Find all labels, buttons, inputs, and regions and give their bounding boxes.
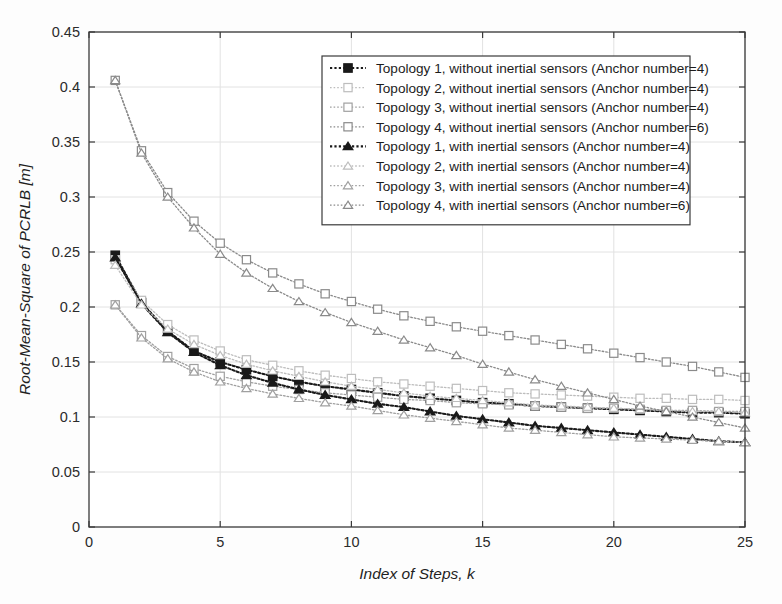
y-axis-tick-label: 0.05 — [52, 464, 80, 480]
data-point-marker — [242, 256, 250, 264]
x-axis-tick-label: 15 — [475, 534, 491, 550]
legend-item-1[interactable]: Topology 1, without inertial sensors (An… — [330, 61, 709, 76]
data-point-marker — [216, 239, 224, 247]
data-point-marker — [583, 345, 591, 353]
y-axis-tick-label: 0.4 — [60, 79, 80, 95]
data-point-marker — [426, 317, 434, 325]
data-point-marker — [400, 312, 408, 320]
legend-marker-sample — [344, 103, 352, 111]
data-point-marker — [531, 390, 539, 398]
x-axis-tick-label: 0 — [85, 534, 93, 550]
legend-label: Topology 4, with inertial sensors (Ancho… — [376, 198, 690, 213]
chart-canvas: 051015202500.050.10.150.20.250.30.350.40… — [0, 0, 782, 604]
data-point-marker — [452, 384, 460, 392]
data-point-marker — [505, 389, 513, 397]
data-point-marker — [505, 332, 513, 340]
legend-item-8[interactable]: Topology 4, with inertial sensors (Ancho… — [330, 198, 690, 213]
legend-label: Topology 2, with inertial sensors (Ancho… — [376, 159, 690, 174]
data-point-marker — [662, 358, 670, 366]
legend-item-3[interactable]: Topology 3, without inertial sensors (An… — [330, 100, 709, 115]
legend-label: Topology 2, without inertial sensors (An… — [376, 81, 709, 96]
figure-container: 051015202500.050.10.150.20.250.30.350.40… — [0, 0, 782, 604]
data-point-marker — [479, 387, 487, 395]
x-axis-tick-label: 25 — [737, 534, 753, 550]
data-point-marker — [557, 340, 565, 348]
legend-item-5[interactable]: Topology 1, with inertial sensors (Ancho… — [330, 139, 690, 154]
legend-item-7[interactable]: Topology 3, with inertial sensors (Ancho… — [330, 179, 690, 194]
data-point-marker — [347, 297, 355, 305]
data-point-marker — [557, 391, 565, 399]
legend-label: Topology 3, with inertial sensors (Ancho… — [376, 179, 690, 194]
data-point-marker — [715, 368, 723, 376]
legend-item-4[interactable]: Topology 4, without inertial sensors (An… — [330, 120, 709, 135]
y-axis-tick-label: 0.35 — [52, 134, 80, 150]
y-axis-tick-label: 0.2 — [60, 299, 80, 315]
y-axis-tick-label: 0.45 — [52, 24, 80, 40]
x-axis-title: Index of Steps, k — [359, 565, 476, 582]
data-point-marker — [636, 354, 644, 362]
data-point-marker — [688, 395, 696, 403]
data-point-marker — [688, 362, 696, 370]
y-axis-tick-label: 0 — [72, 519, 80, 535]
legend-label: Topology 3, without inertial sensors (An… — [376, 100, 709, 115]
data-point-marker — [295, 280, 303, 288]
legend-item-6[interactable]: Topology 2, with inertial sensors (Ancho… — [330, 159, 690, 174]
y-axis-tick-label: 0.3 — [60, 189, 80, 205]
data-point-marker — [269, 269, 277, 277]
data-point-marker — [610, 349, 618, 357]
data-point-marker — [426, 382, 434, 390]
data-point-marker — [452, 323, 460, 331]
y-axis-tick-label: 0.25 — [52, 244, 80, 260]
data-point-marker — [400, 380, 408, 388]
data-point-marker — [662, 394, 670, 402]
x-axis-tick-label: 5 — [216, 534, 224, 550]
data-point-marker — [374, 305, 382, 313]
legend-marker-sample — [344, 84, 352, 92]
data-point-marker — [531, 336, 539, 344]
data-point-marker — [321, 290, 329, 298]
legend-marker-sample — [344, 123, 352, 131]
x-axis-tick-label: 20 — [606, 534, 622, 550]
y-axis-tick-label: 0.1 — [60, 409, 80, 425]
legend-marker-sample — [344, 64, 352, 72]
data-point-marker — [479, 327, 487, 335]
y-axis-tick-label: 0.15 — [52, 354, 80, 370]
y-axis-title: Root-Mean-Square of PCRLB [m] — [16, 163, 33, 395]
x-axis-tick-label: 10 — [343, 534, 359, 550]
data-point-marker — [715, 395, 723, 403]
legend-item-2[interactable]: Topology 2, without inertial sensors (An… — [330, 81, 709, 96]
legend-label: Topology 4, without inertial sensors (An… — [376, 120, 709, 135]
legend-label: Topology 1, without inertial sensors (An… — [376, 61, 709, 76]
legend-label: Topology 1, with inertial sensors (Ancho… — [376, 139, 690, 154]
